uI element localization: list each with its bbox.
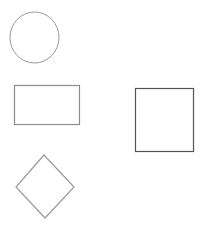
shapes-drawing-surface bbox=[0, 0, 204, 232]
canvas-background bbox=[0, 0, 204, 232]
shapes-canvas bbox=[0, 0, 204, 232]
